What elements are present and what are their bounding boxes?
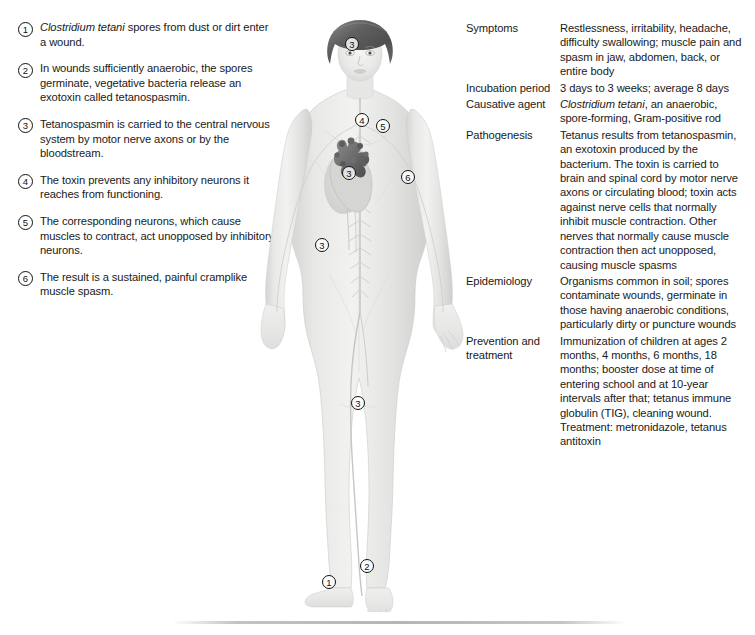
step-number-badge: 3 <box>18 118 33 133</box>
step-text: The toxin prevents any inhibitory neuron… <box>40 173 276 202</box>
fact-row: Prevention and treatmentImmunization of … <box>466 334 746 449</box>
head-and-face <box>327 20 393 99</box>
figure-panel: 345363321 <box>255 12 470 612</box>
fact-label: Prevention and treatment <box>466 334 560 363</box>
callout-shoulder-4: 4 <box>355 113 369 127</box>
step-number-badge: 4 <box>18 174 33 189</box>
callout-foot-2: 2 <box>360 559 374 573</box>
step-text: The corresponding neurons, which cause m… <box>40 214 276 258</box>
callout-heart-3: 3 <box>342 166 356 180</box>
step-text: The result is a sustained, painful cramp… <box>40 270 276 299</box>
step-number-badge: 6 <box>18 271 33 286</box>
fact-row: EpidemiologyOrganisms common in soil; sp… <box>466 274 746 332</box>
callout-arm-6: 6 <box>401 170 415 184</box>
fact-value: Immunization of children at ages 2 month… <box>560 334 746 449</box>
callout-leg-3: 3 <box>351 396 365 410</box>
step-number-badge: 5 <box>18 215 33 230</box>
step-text: Clostridium tetani spores from dust or d… <box>40 20 276 49</box>
fact-row: Causative agentClostridium tetani, an an… <box>466 97 746 126</box>
step-item-1: 1Clostridium tetani spores from dust or … <box>18 20 276 49</box>
callout-shoulder-5: 5 <box>376 119 390 133</box>
callout-foot-1: 1 <box>322 575 336 589</box>
fact-value: Tetanus results from tetanospasmin, an e… <box>560 128 746 272</box>
pathogenesis-step-list: 1Clostridium tetani spores from dust or … <box>18 20 276 311</box>
fact-row: SymptomsRestlessness, irritability, head… <box>466 21 746 79</box>
disease-facts-table: SymptomsRestlessness, irritability, head… <box>466 21 746 451</box>
step-item-4: 4The toxin prevents any inhibitory neuro… <box>18 173 276 202</box>
fact-value: Restlessness, irritability, headache, di… <box>560 21 746 79</box>
step-item-3: 3Tetanospasmin is carried to the central… <box>18 117 276 161</box>
human-body-illustration <box>255 12 470 612</box>
step-item-2: 2In wounds sufficiently anaerobic, the s… <box>18 61 276 105</box>
fact-row: Incubation period3 days to 3 weeks; aver… <box>466 81 746 95</box>
fact-label: Causative agent <box>466 97 560 111</box>
fact-label: Epidemiology <box>466 274 560 288</box>
bottom-divider-rule <box>172 621 627 624</box>
fact-value: Organisms common in soil; spores contami… <box>560 274 746 332</box>
step-number-badge: 2 <box>18 63 33 78</box>
fact-value: 3 days to 3 weeks; average 8 days <box>560 81 746 95</box>
step-number-badge: 1 <box>18 22 33 37</box>
callout-abdomen-3: 3 <box>315 238 329 252</box>
fact-row: PathogenesisTetanus results from tetanos… <box>466 128 746 272</box>
fact-label: Symptoms <box>466 21 560 35</box>
callout-head-3: 3 <box>345 37 359 51</box>
fact-label: Incubation period <box>466 81 560 95</box>
fact-value: Clostridium tetani, an anaerobic, spore-… <box>560 97 746 126</box>
step-item-6: 6The result is a sustained, painful cram… <box>18 270 276 299</box>
step-text: Tetanospasmin is carried to the central … <box>40 117 276 161</box>
step-item-5: 5The corresponding neurons, which cause … <box>18 214 276 258</box>
fact-label: Pathogenesis <box>466 128 560 142</box>
step-text: In wounds sufficiently anaerobic, the sp… <box>40 61 276 105</box>
